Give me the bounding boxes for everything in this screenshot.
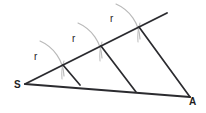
compass-arc-2 xyxy=(78,23,102,58)
geometry-canvas xyxy=(0,0,206,113)
segment-label-r2: r xyxy=(72,34,75,44)
segment-label-r1: r xyxy=(34,52,37,62)
transversal-line-2 xyxy=(101,46,136,92)
transversal-group xyxy=(63,27,190,97)
transversal-line-3 xyxy=(139,27,190,97)
geometry-figure: S A r r r xyxy=(0,0,206,113)
compass-arcs-group xyxy=(40,4,140,76)
vertex-label-a: A xyxy=(189,97,196,107)
transversal-line-1 xyxy=(63,65,80,85)
segment-label-r3: r xyxy=(110,14,113,24)
upper-ray-line xyxy=(25,13,167,84)
base-ray-line xyxy=(25,84,190,97)
compass-arc-3 xyxy=(116,4,140,39)
vertex-label-s: S xyxy=(14,80,21,90)
